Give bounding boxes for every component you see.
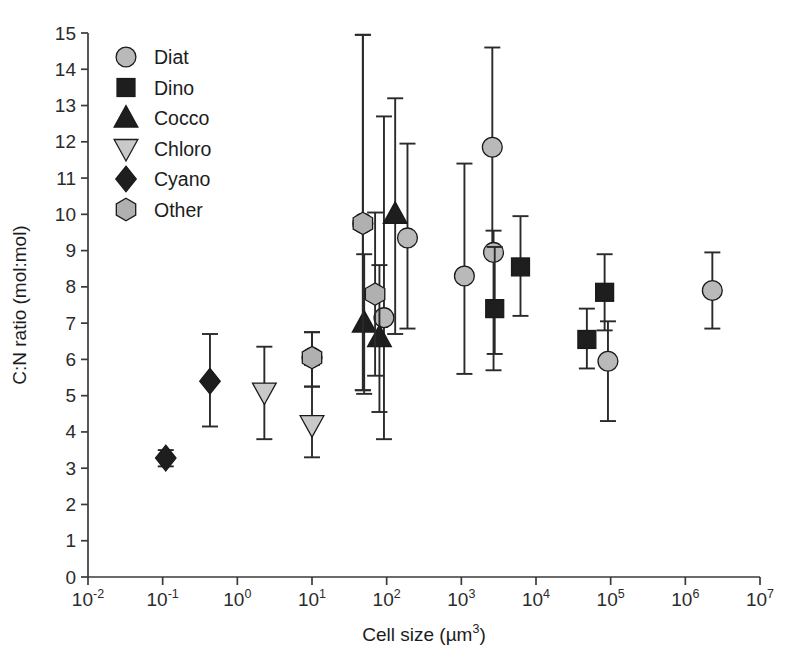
y-axis-tick-label: 15 — [55, 23, 76, 44]
legend-label: Other — [154, 199, 203, 221]
y-axis-tick-label: 2 — [65, 494, 76, 515]
y-axis-tick-label: 7 — [65, 313, 76, 334]
marker-circle — [484, 242, 504, 262]
y-axis-title: C:N ratio (mol:mol) — [9, 225, 30, 384]
marker-circle — [374, 308, 394, 328]
y-axis-tick-label: 6 — [65, 349, 76, 370]
legend-label: Cyano — [154, 168, 211, 190]
chart-container: 1514131211109876543210 10-210-1100101102… — [0, 0, 804, 662]
y-axis-tick-label: 9 — [65, 240, 76, 261]
legend-marker-hexagon — [116, 198, 135, 220]
y-axis-tick-label: 8 — [65, 276, 76, 297]
y-axis-tick-label: 4 — [65, 421, 76, 442]
chart-background — [0, 0, 804, 662]
marker-square — [578, 330, 596, 348]
legend-item-dino: Dino — [117, 77, 194, 99]
y-axis-tick-label: 1 — [65, 530, 76, 551]
legend-label: Cocco — [154, 107, 209, 129]
y-axis-tick-label: 11 — [56, 168, 76, 189]
y-axis-tick-label: 13 — [55, 95, 76, 116]
marker-hexagon — [302, 346, 321, 368]
marker-circle — [455, 266, 475, 286]
legend-marker-square — [117, 79, 135, 97]
marker-square — [486, 300, 504, 318]
marker-circle — [482, 137, 502, 157]
y-axis-tick-label: 5 — [65, 385, 76, 406]
x-axis-title: Cell size (µm3) — [362, 622, 485, 645]
marker-circle — [598, 351, 618, 371]
legend-marker-circle — [116, 47, 136, 67]
y-axis-tick-label: 3 — [65, 458, 76, 479]
marker-hexagon — [365, 283, 384, 305]
y-axis-tick-label: 10 — [55, 204, 76, 225]
legend-label: Diat — [154, 46, 189, 68]
legend-item-cocco: Cocco — [114, 106, 209, 129]
marker-circle — [398, 228, 418, 248]
legend-label: Dino — [154, 77, 194, 99]
legend-item-other: Other — [116, 198, 203, 220]
cn-ratio-vs-cell-size-scatter-plot: 1514131211109876543210 10-210-1100101102… — [0, 0, 804, 662]
y-axis-tick-label: 0 — [65, 567, 76, 588]
marker-square — [596, 283, 614, 301]
marker-circle — [702, 281, 722, 301]
y-axis-tick-label: 12 — [55, 131, 76, 152]
y-axis-tick-label: 14 — [55, 59, 77, 80]
legend-label: Chloro — [154, 138, 212, 160]
marker-hexagon — [353, 212, 372, 234]
marker-square — [512, 258, 530, 276]
